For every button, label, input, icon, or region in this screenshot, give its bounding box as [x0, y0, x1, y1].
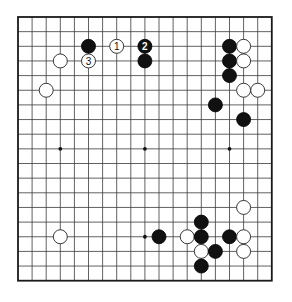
white-stone-icon — [237, 83, 251, 97]
black-stone-icon — [208, 244, 222, 258]
white-stone — [237, 39, 251, 53]
star-point-icon — [228, 147, 232, 151]
black-stone — [208, 244, 222, 258]
black-stone — [152, 230, 166, 244]
white-stone-icon — [237, 200, 251, 214]
white-stone — [237, 230, 251, 244]
black-stone — [82, 39, 96, 53]
black-stone-icon — [82, 39, 96, 53]
white-stone-icon — [194, 244, 208, 258]
white-stone — [251, 83, 265, 97]
white-stone-icon — [237, 244, 251, 258]
black-stone-icon — [194, 259, 208, 273]
move-number: 3 — [86, 56, 92, 67]
black-stone-icon — [152, 230, 166, 244]
black-stone-icon — [223, 39, 237, 53]
white-stone — [39, 83, 53, 97]
white-stone-icon — [53, 54, 67, 68]
white-stone-icon — [237, 39, 251, 53]
black-stone: 2 — [138, 39, 152, 53]
black-stone-icon — [194, 230, 208, 244]
white-stone — [53, 54, 67, 68]
white-stone-icon — [180, 230, 194, 244]
black-stone-icon — [223, 230, 237, 244]
black-stone-icon — [237, 113, 251, 127]
black-stone — [237, 113, 251, 127]
white-stone-icon — [53, 230, 67, 244]
white-stone: 1 — [110, 39, 124, 53]
white-stone — [237, 54, 251, 68]
black-stone-icon — [208, 98, 222, 112]
white-stone-icon — [237, 54, 251, 68]
white-stone — [237, 83, 251, 97]
black-stone-icon — [194, 215, 208, 229]
white-stone-icon — [237, 230, 251, 244]
black-stone — [194, 259, 208, 273]
black-stone — [208, 98, 222, 112]
stones: 123 — [39, 39, 265, 273]
move-number: 2 — [142, 41, 148, 52]
star-point-icon — [143, 235, 147, 239]
go-board-diagram: 123 — [0, 0, 292, 302]
black-stone-icon — [138, 54, 152, 68]
white-stone-icon — [39, 83, 53, 97]
white-stone — [237, 200, 251, 214]
black-stone-icon — [223, 54, 237, 68]
black-stone-icon — [223, 69, 237, 83]
white-stone — [194, 244, 208, 258]
black-stone — [194, 215, 208, 229]
black-stone — [223, 54, 237, 68]
black-stone — [223, 39, 237, 53]
star-point-icon — [143, 147, 147, 151]
black-stone — [223, 230, 237, 244]
black-stone — [223, 69, 237, 83]
black-stone — [194, 230, 208, 244]
white-stone — [180, 230, 194, 244]
white-stone — [237, 244, 251, 258]
move-number: 1 — [114, 41, 120, 52]
white-stone-icon — [251, 83, 265, 97]
white-stone: 3 — [82, 54, 96, 68]
black-stone — [138, 54, 152, 68]
go-board: 123 — [0, 0, 292, 302]
white-stone — [53, 230, 67, 244]
star-point-icon — [58, 147, 62, 151]
